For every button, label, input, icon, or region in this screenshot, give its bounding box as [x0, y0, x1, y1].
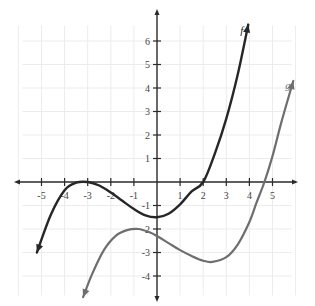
- y-tick-label: 6: [145, 36, 150, 47]
- y-axis-arrow-up-icon: [155, 9, 160, 15]
- x-axis-arrow-left-icon: [14, 180, 20, 185]
- curve-labels: fg: [240, 24, 291, 91]
- y-axis-arrow-down-icon: [155, 296, 160, 302]
- y-tick-label: 2: [145, 130, 150, 141]
- function-graph: -5-4-3-2-112345-4-3-2-1123456 fg: [0, 0, 315, 306]
- x-tick-label: -3: [84, 190, 92, 201]
- x-tick-label: 2: [201, 190, 206, 201]
- x-tick-label: 4: [247, 190, 252, 201]
- y-tick-label: 4: [145, 83, 150, 94]
- y-tick-label: 3: [145, 106, 150, 117]
- curve-f-arrow-start-icon: [36, 244, 43, 253]
- y-tick-label: -4: [142, 271, 150, 282]
- x-tick-label: 1: [178, 190, 183, 201]
- x-tick-label: 5: [270, 190, 275, 201]
- axes: [14, 9, 298, 302]
- curves: [36, 25, 294, 298]
- y-tick-label: -1: [142, 200, 150, 211]
- y-tick-label: 5: [145, 59, 150, 70]
- x-tick-label: 3: [224, 190, 229, 201]
- y-tick-label: 1: [145, 153, 150, 164]
- x-axis-arrow-right-icon: [292, 180, 298, 185]
- y-tick-label: -3: [142, 247, 150, 258]
- x-tick-label: -5: [37, 190, 45, 201]
- curve-f: [37, 25, 248, 253]
- x-tick-label: -1: [130, 190, 138, 201]
- curve-g-label: g: [285, 79, 291, 91]
